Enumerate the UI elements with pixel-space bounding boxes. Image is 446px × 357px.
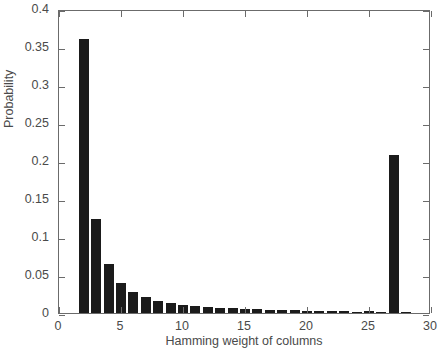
bar bbox=[290, 310, 300, 313]
bar bbox=[389, 155, 399, 313]
bar bbox=[277, 310, 287, 313]
x-axis-tick-label: 25 bbox=[348, 319, 388, 333]
bar bbox=[190, 306, 200, 313]
bar bbox=[252, 309, 262, 313]
x-axis-tick bbox=[431, 307, 432, 313]
y-axis-tick-label: 0.25 bbox=[0, 116, 49, 130]
y-axis-tick bbox=[59, 125, 65, 126]
y-axis-tick bbox=[59, 163, 65, 164]
x-axis-tick bbox=[59, 307, 60, 313]
bar bbox=[327, 311, 337, 313]
bar bbox=[314, 311, 324, 313]
x-axis-tick-top bbox=[245, 11, 246, 17]
y-axis-tick-right bbox=[423, 87, 429, 88]
x-axis-tick-top bbox=[183, 11, 184, 17]
bar bbox=[91, 219, 101, 313]
y-axis-tick-right bbox=[423, 277, 429, 278]
x-axis-tick-label: 0 bbox=[38, 319, 78, 333]
bar bbox=[153, 301, 163, 313]
y-axis-tick-right bbox=[423, 315, 429, 316]
y-axis-tick-label: 0.4 bbox=[0, 2, 49, 16]
y-axis-tick-right bbox=[423, 163, 429, 164]
bars-layer bbox=[59, 11, 429, 313]
bar bbox=[376, 312, 386, 313]
x-axis-tick-label: 5 bbox=[100, 319, 140, 333]
x-axis-tick-top bbox=[121, 11, 122, 17]
x-axis-tick-top bbox=[369, 11, 370, 17]
y-axis-tick-right bbox=[423, 49, 429, 50]
y-axis-tick bbox=[59, 239, 65, 240]
figure-canvas: Probability 00.050.10.150.20.250.30.350.… bbox=[0, 0, 446, 357]
bar bbox=[128, 292, 138, 313]
bar bbox=[339, 311, 349, 313]
x-axis-tick-label: 20 bbox=[286, 319, 326, 333]
x-axis-tick-label: 30 bbox=[410, 319, 446, 333]
y-axis-tick bbox=[59, 49, 65, 50]
x-axis-tick-top bbox=[59, 11, 60, 17]
y-axis-tick bbox=[59, 201, 65, 202]
bar bbox=[265, 310, 275, 313]
y-axis-tick-label: 0.05 bbox=[0, 268, 49, 282]
y-axis-tick-label: 0.3 bbox=[0, 78, 49, 92]
x-axis-tick-label: 15 bbox=[224, 319, 264, 333]
y-axis-tick-right bbox=[423, 125, 429, 126]
x-axis-tick-label: 10 bbox=[162, 319, 202, 333]
y-axis-tick-label: 0.35 bbox=[0, 40, 49, 54]
bar bbox=[228, 308, 238, 313]
bar bbox=[215, 308, 225, 313]
bar bbox=[166, 303, 176, 313]
y-axis-tick-right bbox=[423, 239, 429, 240]
x-axis-tick bbox=[307, 307, 308, 313]
bar bbox=[352, 312, 362, 313]
bar bbox=[141, 297, 151, 313]
bar bbox=[79, 39, 89, 313]
x-axis-tick bbox=[121, 307, 122, 313]
y-axis-tick bbox=[59, 87, 65, 88]
y-axis-tick bbox=[59, 277, 65, 278]
x-axis-tick bbox=[369, 307, 370, 313]
bar bbox=[203, 307, 213, 313]
y-axis-tick-label: 0 bbox=[0, 306, 49, 320]
y-axis-tick-label: 0.1 bbox=[0, 230, 49, 244]
y-axis-tick-label: 0.2 bbox=[0, 154, 49, 168]
y-axis-tick-right bbox=[423, 201, 429, 202]
x-axis-tick-top bbox=[307, 11, 308, 17]
x-axis-tick bbox=[183, 307, 184, 313]
bar bbox=[401, 312, 411, 313]
x-axis-tick-top bbox=[431, 11, 432, 17]
plot-area bbox=[58, 10, 430, 314]
y-axis-tick-label: 0.15 bbox=[0, 192, 49, 206]
x-axis-tick bbox=[245, 307, 246, 313]
y-axis-tick-right bbox=[423, 11, 429, 12]
x-axis-title: Hamming weight of columns bbox=[58, 334, 430, 348]
y-axis-tick bbox=[59, 315, 65, 316]
bar bbox=[104, 264, 114, 313]
